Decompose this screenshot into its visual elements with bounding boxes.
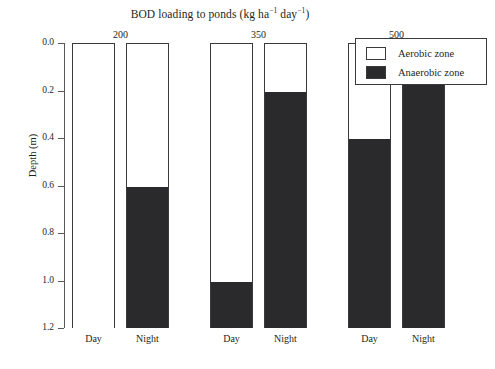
chart-legend: Aerobic zone Anaerobic zone	[355, 38, 487, 85]
bar-segment-anaerobic	[127, 186, 168, 329]
bar-segment-anaerobic	[349, 138, 390, 328]
bar-200-day	[72, 43, 115, 328]
bar-segment-anaerobic	[403, 53, 444, 329]
bar-segment-aerobic	[211, 44, 252, 282]
y-axis-tick-label: 0.2	[26, 86, 54, 96]
bar-500-night	[402, 43, 445, 328]
chart-figure: BOD loading to ponds (kg ha−1 day−1) 0.0…	[0, 0, 495, 369]
x-tick-label-200-day: Day	[72, 333, 115, 344]
y-axis-tick	[58, 233, 64, 234]
bar-segment-anaerobic	[265, 91, 306, 329]
x-tick-label-350-night: Night	[264, 333, 307, 344]
x-tick-label-500-day: Day	[348, 333, 391, 344]
y-axis-spine	[64, 43, 65, 328]
bar-segment-aerobic	[127, 44, 168, 187]
legend-label-anaerobic: Anaerobic zone	[398, 67, 464, 78]
bar-segment-aerobic	[265, 44, 306, 92]
bar-350-night	[264, 43, 307, 328]
y-axis-tick-label: 1.2	[26, 323, 54, 333]
bar-segment-aerobic	[73, 44, 114, 328]
legend-item-anaerobic: Anaerobic zone	[366, 64, 464, 80]
legend-swatch-anaerobic-icon	[366, 66, 386, 79]
bar-350-day	[210, 43, 253, 328]
y-axis-tick	[58, 186, 64, 187]
y-axis-tick-label: 1.0	[26, 276, 54, 286]
bar-500-day	[348, 43, 391, 328]
y-axis-tick	[58, 43, 64, 44]
x-tick-label-200-night: Night	[126, 333, 169, 344]
y-axis-tick	[58, 138, 64, 139]
y-axis-tick-label: 0.8	[26, 228, 54, 238]
y-axis-label: Depth (m)	[27, 116, 38, 196]
y-axis-tick	[58, 281, 64, 282]
legend-swatch-aerobic-icon	[366, 47, 386, 60]
x-tick-label-350-day: Day	[210, 333, 253, 344]
legend-label-aerobic: Aerobic zone	[398, 48, 454, 59]
bar-segment-anaerobic	[211, 281, 252, 329]
bar-200-night	[126, 43, 169, 328]
y-axis-tick	[58, 91, 64, 92]
y-axis-tick	[58, 328, 64, 329]
group-label-350: 350	[210, 29, 307, 40]
x-tick-label-500-night: Night	[402, 333, 445, 344]
legend-item-aerobic: Aerobic zone	[366, 45, 454, 61]
group-label-200: 200	[72, 29, 169, 40]
y-axis-tick-label: 0.0	[26, 38, 54, 48]
